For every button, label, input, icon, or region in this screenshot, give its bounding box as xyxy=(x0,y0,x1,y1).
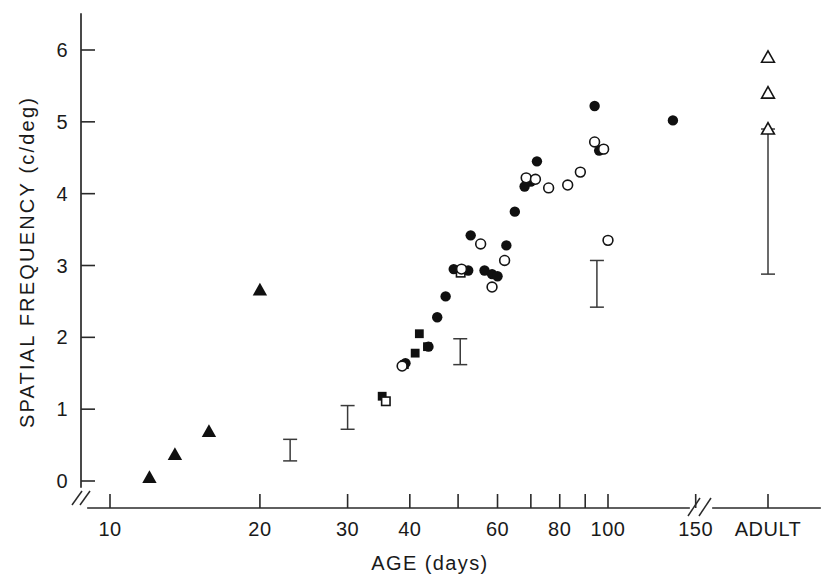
data-point-open-circle xyxy=(603,235,613,245)
y-axis-tick-label: 0 xyxy=(56,470,68,492)
data-point-open-circle xyxy=(500,256,510,266)
data-point-filled-triangle xyxy=(168,447,182,460)
error-bar xyxy=(590,260,604,307)
data-point-open-circle xyxy=(544,183,554,193)
data-point-open-circle xyxy=(599,144,609,154)
x-axis-break-mark-2 xyxy=(699,498,711,516)
data-point-filled-circle xyxy=(510,206,520,216)
plot-contents-layer: 0123456102030406080100150ADULT xyxy=(56,39,801,540)
data-point-filled-circle xyxy=(668,115,678,125)
data-point-open-circle xyxy=(590,137,600,147)
data-point-filled-triangle xyxy=(142,470,156,483)
x-axis-tick-label: 100 xyxy=(591,518,626,540)
data-point-filled-circle xyxy=(432,312,442,322)
y-axis-tick-label: 5 xyxy=(56,111,68,133)
data-point-filled-circle xyxy=(532,156,542,166)
data-point-open-square xyxy=(382,397,390,405)
error-bar xyxy=(453,339,467,365)
y-axis-break-mark-1 xyxy=(72,491,82,505)
data-point-open-circle xyxy=(487,282,497,292)
scatter-plot: 0123456102030406080100150ADULT AGE (days… xyxy=(0,0,833,582)
error-bar xyxy=(341,406,355,430)
y-axis-tick-label: 2 xyxy=(56,326,68,348)
data-point-filled-square xyxy=(415,329,424,338)
data-point-open-circle xyxy=(563,180,573,190)
x-axis-tick-label: 60 xyxy=(486,518,509,540)
x-axis-tick-label: 20 xyxy=(248,518,271,540)
data-point-open-circle xyxy=(575,167,585,177)
figure-container: 0123456102030406080100150ADULT AGE (days… xyxy=(0,0,833,582)
data-point-open-circle xyxy=(531,174,541,184)
data-point-filled-circle xyxy=(501,240,511,250)
data-point-open-triangle-adult xyxy=(762,87,775,98)
error-bar xyxy=(761,129,775,274)
y-axis-break-mark-2 xyxy=(80,491,90,505)
data-point-filled-circle xyxy=(492,271,502,281)
x-axis-tick-label: 10 xyxy=(98,518,121,540)
data-point-filled-circle xyxy=(440,291,450,301)
data-point-filled-triangle xyxy=(202,424,216,437)
x-axis-tick-label: 80 xyxy=(548,518,571,540)
data-point-open-circle xyxy=(397,361,407,371)
x-axis-title: AGE (days) xyxy=(371,552,488,574)
data-point-filled-circle xyxy=(589,101,599,111)
y-axis-tick-label: 6 xyxy=(56,39,68,61)
y-axis-tick-label: 3 xyxy=(56,255,68,277)
data-point-filled-circle xyxy=(423,341,433,351)
data-point-open-triangle-adult xyxy=(762,51,775,62)
y-axis-tick-label: 1 xyxy=(56,398,68,420)
data-point-filled-triangle xyxy=(253,283,267,296)
data-point-open-circle xyxy=(521,173,531,183)
x-axis-tick-label: 30 xyxy=(336,518,359,540)
error-bar xyxy=(283,439,297,461)
x-axis-break-mark-1 xyxy=(688,498,700,516)
x-axis-group xyxy=(88,498,820,516)
x-axis-tick-label: 40 xyxy=(398,518,421,540)
data-point-open-circle xyxy=(457,264,467,274)
y-axis-tick-label: 4 xyxy=(56,183,68,205)
x-axis-tick-label-adult: ADULT xyxy=(735,518,802,540)
data-point-open-circle xyxy=(476,239,486,249)
x-axis-tick-label: 150 xyxy=(678,518,713,540)
data-point-filled-square xyxy=(411,349,420,358)
y-axis-group xyxy=(72,14,90,505)
data-point-filled-circle xyxy=(465,230,475,240)
y-axis-title: SPATIAL FREQUENCY (c/deg) xyxy=(16,96,38,428)
